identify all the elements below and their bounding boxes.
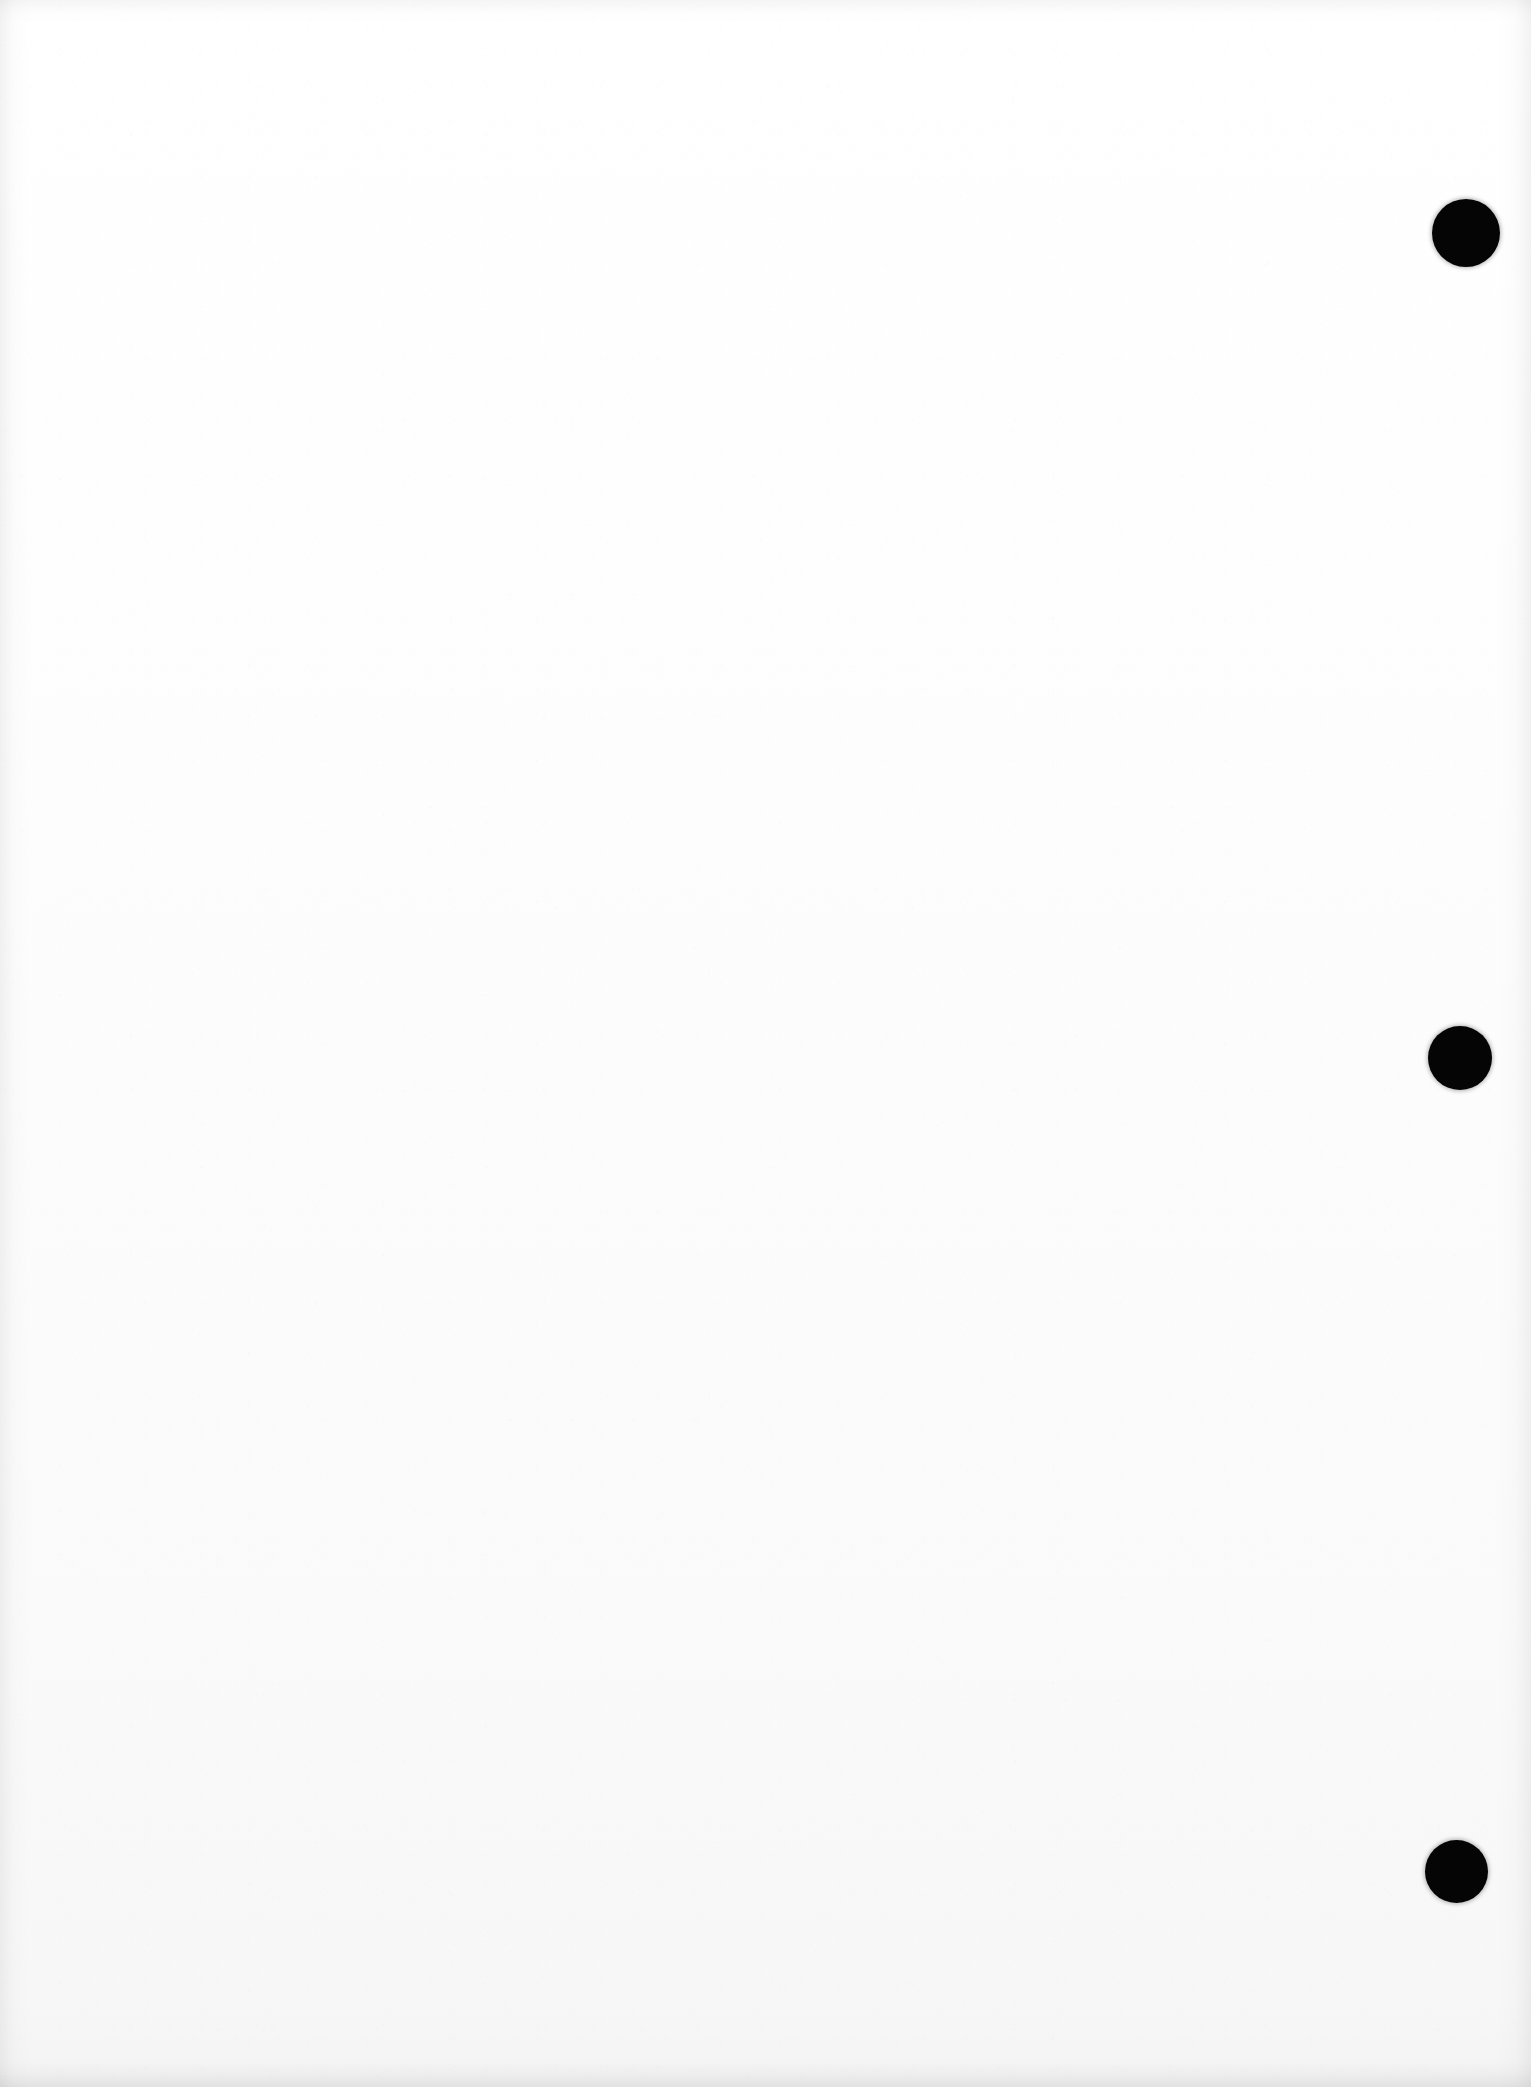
- scanned-page: [0, 0, 1531, 2087]
- bottom-edge-shadow: [0, 2061, 1531, 2087]
- punch-mark-middle: [1428, 1026, 1492, 1090]
- page-body-text: [120, 150, 1320, 1930]
- top-edge-shadow: [0, 0, 1531, 24]
- right-edge-shadow: [1497, 0, 1531, 2087]
- punch-mark-bottom: [1425, 1840, 1488, 1903]
- left-edge-shadow: [0, 0, 30, 2087]
- punch-mark-top: [1432, 199, 1500, 267]
